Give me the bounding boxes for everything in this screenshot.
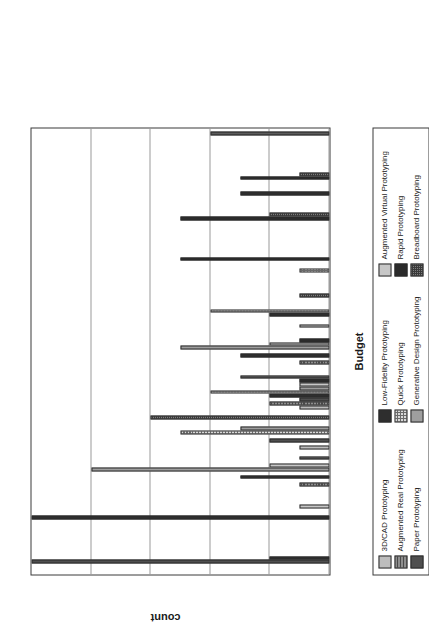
legend-item[interactable]: Paper Prototyping	[410, 426, 423, 568]
legend-item[interactable]: Augmented Virtual Prototyping	[378, 134, 391, 276]
legend-item-label: Breadboard Prototyping	[412, 175, 420, 260]
legend-swatch-icon	[410, 555, 423, 568]
bar	[240, 475, 329, 479]
bar	[210, 309, 329, 313]
y-tick-mark	[149, 574, 150, 575]
y-axis-label: count	[150, 611, 180, 623]
legend-item-label: Augmented Virtual Prototyping	[380, 151, 388, 259]
bar-group	[31, 456, 329, 490]
bar-group	[31, 375, 329, 409]
legend-item[interactable]: Generative Design Prototyping	[410, 280, 423, 422]
bar	[299, 482, 329, 486]
y-tick-mark	[90, 574, 91, 575]
bar	[299, 504, 329, 508]
bar	[31, 559, 329, 563]
bar	[269, 463, 329, 467]
legend-swatch-icon	[378, 263, 391, 276]
y-tick-mark	[30, 574, 31, 575]
bar	[299, 268, 329, 272]
x-tick-mark	[329, 431, 330, 432]
x-tick-mark	[329, 188, 330, 189]
bar	[240, 191, 329, 195]
bar	[180, 257, 329, 261]
x-axis-label: Budget	[352, 127, 364, 575]
bar	[299, 382, 329, 386]
bar	[299, 456, 329, 460]
legend-column: 3D/CAD PrototypingAugmented Real Prototy…	[378, 426, 423, 568]
bar	[180, 216, 329, 220]
x-tick-mark	[329, 228, 330, 229]
bar	[269, 312, 329, 316]
bar-group	[31, 253, 329, 287]
bar	[299, 445, 329, 449]
bar	[240, 176, 329, 180]
bar-group	[31, 212, 329, 246]
bar	[240, 375, 329, 379]
legend: 3D/CAD PrototypingAugmented Real Prototy…	[372, 127, 429, 575]
bar	[31, 515, 329, 519]
bar-group	[31, 496, 329, 530]
legend-item-label: Generative Design Prototyping	[412, 296, 420, 405]
y-tick-mark	[328, 574, 329, 575]
bar	[299, 360, 329, 364]
legend-item[interactable]: 3D/CAD Prototyping	[378, 426, 391, 568]
bar-group	[31, 131, 329, 165]
bar	[269, 438, 329, 442]
x-tick-mark	[329, 391, 330, 392]
y-tick-mark	[209, 574, 210, 575]
bar	[150, 415, 329, 419]
legend-swatch-icon	[394, 263, 407, 276]
x-tick-mark	[329, 350, 330, 351]
bar	[299, 338, 329, 342]
bar	[269, 342, 329, 346]
x-tick-mark	[329, 269, 330, 270]
bar-group	[31, 172, 329, 206]
legend-item-label: Low-Fidelity Prototyping	[380, 320, 388, 405]
bar	[269, 212, 329, 216]
legend-item[interactable]: Rapid Prototyping	[394, 134, 407, 276]
bar	[180, 430, 329, 434]
legend-item[interactable]: Quick Prototyping	[394, 280, 407, 422]
bar	[299, 378, 329, 382]
bar-group	[31, 334, 329, 368]
legend-item-label: Quick Prototyping	[396, 342, 404, 405]
bar-group	[31, 293, 329, 327]
x-tick-mark	[329, 309, 330, 310]
legend-item[interactable]: Low-Fidelity Prototyping	[378, 280, 391, 422]
bar	[299, 324, 329, 328]
legend-item-label: 3D/CAD Prototyping	[380, 479, 388, 551]
bar	[299, 405, 329, 409]
bar	[240, 426, 329, 430]
x-tick-mark	[329, 472, 330, 473]
legend-item[interactable]: Breadboard Prototyping	[410, 134, 423, 276]
legend-item-label: Paper Prototyping	[412, 487, 420, 551]
bar	[299, 386, 329, 390]
legend-item-label: Rapid Prototyping	[396, 195, 404, 259]
legend-swatch-icon	[378, 555, 391, 568]
bar-group	[31, 415, 329, 449]
legend-item[interactable]: Augmented Real Prototyping	[394, 426, 407, 568]
legend-swatch-icon	[394, 409, 407, 422]
bar	[269, 393, 329, 397]
bar	[299, 172, 329, 176]
legend-swatch-icon	[410, 409, 423, 422]
x-tick-mark	[329, 147, 330, 148]
legend-swatch-icon	[378, 409, 391, 422]
bar	[210, 131, 329, 135]
bar	[240, 353, 329, 357]
legend-column: Low-Fidelity PrototypingQuick Prototypin…	[378, 280, 423, 422]
legend-item-label: Augmented Real Prototyping	[396, 449, 404, 551]
bar	[299, 397, 329, 401]
bar	[91, 467, 329, 471]
bar	[299, 293, 329, 297]
legend-swatch-icon	[410, 263, 423, 276]
bar	[210, 390, 329, 394]
y-tick-mark	[268, 574, 269, 575]
x-tick-mark	[329, 512, 330, 513]
legend-swatch-icon	[394, 555, 407, 568]
bar	[180, 345, 329, 349]
bar	[269, 401, 329, 405]
